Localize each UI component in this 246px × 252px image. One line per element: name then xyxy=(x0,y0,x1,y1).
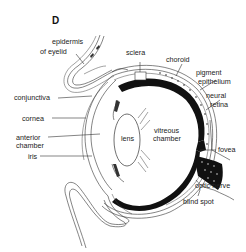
sclera-marker-box xyxy=(135,72,146,80)
label-blind-spot: blind spot xyxy=(183,197,214,206)
label-fovea: fovea xyxy=(218,145,236,154)
label-pigment-2: epithelium xyxy=(198,77,231,86)
cornea xyxy=(82,76,116,196)
label-neural-2: retina xyxy=(210,100,228,109)
label-sclera: sclera xyxy=(126,48,145,57)
label-lens: lens xyxy=(121,134,135,143)
panel-letter: D xyxy=(52,15,59,26)
label-conjunctiva: conjunctiva xyxy=(14,93,50,102)
label-neural-1: neural xyxy=(206,91,226,100)
label-pigment-1: pigment xyxy=(196,68,222,77)
label-vitreous-2: chamber xyxy=(153,134,182,143)
label-iris: iris xyxy=(28,152,38,161)
label-anterior-2: chamber xyxy=(16,141,45,150)
eye-anatomy-diagram: D xyxy=(0,0,246,252)
label-cornea: cornea xyxy=(22,114,44,123)
label-epidermis-2: of eyelid xyxy=(40,47,67,56)
label-optic-nerve: optic nerve xyxy=(195,181,230,190)
label-epidermis-1: epidermis xyxy=(52,37,84,46)
lower-eyelid xyxy=(65,182,132,248)
label-choroid: choroid xyxy=(166,55,190,64)
